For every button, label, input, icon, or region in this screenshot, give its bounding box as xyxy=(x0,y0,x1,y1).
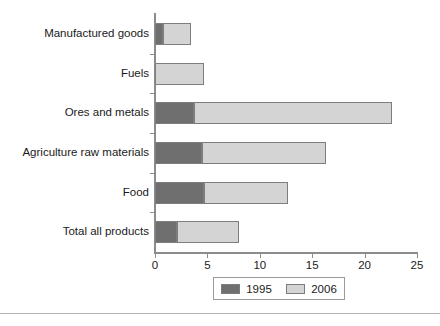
bar-segment-2006 xyxy=(202,142,326,164)
category-label-3: Agriculture raw materials xyxy=(3,146,149,159)
bar-segment-1995 xyxy=(155,23,163,45)
x-axis-ticks: 0510152025 xyxy=(155,253,417,277)
x-axis-tick xyxy=(417,253,418,258)
x-axis-tick xyxy=(260,253,261,258)
legend-label: 2006 xyxy=(311,283,337,295)
bar-segment-2006 xyxy=(204,182,288,204)
category-label-2: Ores and metals xyxy=(3,106,149,119)
legend-entry-1995: 1995 xyxy=(221,283,272,295)
x-axis-tick-label-0: 0 xyxy=(152,259,158,271)
x-axis-tick xyxy=(365,253,366,258)
y-axis-tick xyxy=(150,54,155,55)
category-label-0: Manufactured goods xyxy=(3,27,149,40)
category-label-4: Food xyxy=(3,186,149,199)
x-axis-tick-label-2: 10 xyxy=(253,259,266,271)
y-axis-tick xyxy=(150,93,155,94)
legend-entry-2006: 2006 xyxy=(286,283,337,295)
bar-segment-2006 xyxy=(194,102,392,124)
x-axis-tick xyxy=(207,253,208,258)
x-axis-tick-label-5: 25 xyxy=(411,259,424,271)
footer-divider xyxy=(0,313,440,314)
plot-area xyxy=(155,14,417,252)
x-axis-tick-label-4: 20 xyxy=(358,259,371,271)
x-axis-tick xyxy=(312,253,313,258)
legend-label: 1995 xyxy=(246,283,272,295)
chart-legend: 19952006 xyxy=(213,277,345,300)
bar-segment-2006 xyxy=(155,63,204,85)
category-label-5: Total all products xyxy=(3,225,149,238)
bar-segment-1995 xyxy=(155,102,194,124)
bar-segment-2006 xyxy=(163,23,190,45)
x-axis-tick-label-3: 15 xyxy=(306,259,319,271)
x-axis-tick-label-1: 5 xyxy=(204,259,210,271)
y-axis-tick xyxy=(150,212,155,213)
bar-segment-1995 xyxy=(155,221,177,243)
category-label-1: Fuels xyxy=(3,67,149,80)
y-axis-tick xyxy=(150,133,155,134)
y-axis-tick xyxy=(150,173,155,174)
bar-segment-1995 xyxy=(155,182,204,204)
bar-segment-1995 xyxy=(155,142,202,164)
bar-segment-2006 xyxy=(177,221,239,243)
x-axis-tick xyxy=(155,253,156,258)
bar-chart-figure: Manufactured goodsFuelsOres and metalsAg… xyxy=(0,0,440,326)
category-label-layer: Manufactured goodsFuelsOres and metalsAg… xyxy=(0,14,149,252)
legend-swatch-icon xyxy=(221,284,240,294)
legend-swatch-icon xyxy=(286,284,305,294)
